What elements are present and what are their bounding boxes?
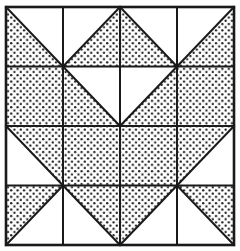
quilt-cell-2-1-full bbox=[63, 126, 120, 186]
quilt-block-diagram bbox=[0, 0, 240, 251]
quilt-cell-1-0-full bbox=[6, 67, 63, 127]
quilt-cell-1-3-full bbox=[177, 67, 234, 127]
quilt-block-svg bbox=[0, 0, 240, 251]
quilt-cell-2-2-full bbox=[120, 126, 177, 186]
